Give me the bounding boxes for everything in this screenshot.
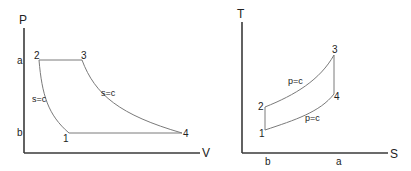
compression-annotation: s=c <box>32 94 47 104</box>
point-3-label: 3 <box>81 50 87 61</box>
expansion-annotation: s=c <box>101 88 116 98</box>
point-4-label: 4 <box>183 128 189 139</box>
tick-b: b <box>265 156 271 167</box>
brayton-cycle-diagrams: P V a b 2 3 4 1 s=c s=c T S b a 2 3 4 1 … <box>0 0 411 171</box>
s-axis-label: S <box>390 147 398 161</box>
heat-rejection-annotation: p=c <box>305 113 320 123</box>
tick-a: a <box>17 55 23 66</box>
tick-a: a <box>336 156 342 167</box>
point-2-label: 2 <box>258 101 264 112</box>
ts-diagram: T S b a 2 3 4 1 p=c p=c <box>237 7 398 167</box>
v-axis-label: V <box>202 146 210 160</box>
isentropic-expansion-curve <box>82 60 182 133</box>
point-1-label: 1 <box>63 133 69 144</box>
point-3-label: 3 <box>332 44 338 55</box>
constant-pressure-heat-rejection-curve <box>265 94 334 130</box>
p-axis-label: P <box>19 13 27 27</box>
tick-b: b <box>17 127 23 138</box>
heat-addition-annotation: p=c <box>288 76 303 86</box>
point-4-label: 4 <box>334 91 340 102</box>
pv-diagram: P V a b 2 3 4 1 s=c s=c <box>17 13 210 160</box>
point-2-label: 2 <box>34 50 40 61</box>
point-1-label: 1 <box>259 128 265 139</box>
t-axis-label: T <box>237 7 245 21</box>
